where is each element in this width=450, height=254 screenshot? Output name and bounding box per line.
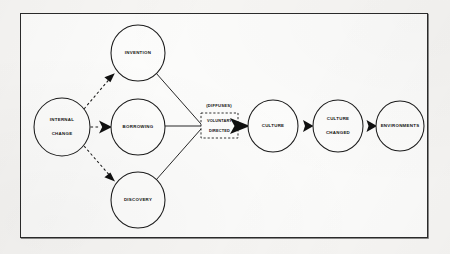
node-shape: [313, 100, 363, 152]
edge-culture-to-culture-changed: [303, 120, 314, 132]
node-shape: [34, 98, 90, 156]
node-label-line1: INVENTION: [125, 50, 151, 55]
node-culture[interactable]: CULTURE: [248, 100, 298, 152]
arrow-head-icon: [367, 120, 378, 132]
dashed-line: [84, 76, 112, 109]
node-label-line1: ENVIRONMENTS: [381, 123, 420, 128]
edge-internal-to-discovery: [84, 146, 115, 181]
node-discovery[interactable]: DISCOVERY: [111, 172, 165, 228]
diffuses-caption: (DIFFUSES): [206, 103, 232, 108]
node-label-line2: CHANGE: [52, 131, 73, 136]
diagram-page: VOLUNTARY DIRECTED (DIFFUSES) INTERNAL C…: [0, 0, 450, 254]
dashed-line: [84, 146, 112, 178]
node-label-line1: CULTURE: [262, 123, 285, 128]
node-internal-change[interactable]: INTERNAL CHANGE: [34, 98, 90, 156]
voluntary-directed-label-line1: VOLUNTARY: [207, 118, 232, 123]
voluntary-directed-label-line2: DIRECTED: [209, 128, 230, 133]
node-borrowing[interactable]: BORROWING: [111, 99, 165, 155]
node-label-line1: INTERNAL: [50, 117, 74, 122]
arrow-head-icon: [99, 121, 112, 134]
arrow-head-icon: [104, 172, 115, 181]
node-label-line1: BORROWING: [123, 124, 154, 129]
arrow-head-icon: [303, 120, 314, 132]
node-label-line1: CULTURE: [327, 116, 350, 121]
node-invention[interactable]: INVENTION: [111, 25, 165, 81]
edge-internal-to-invention: [84, 73, 115, 109]
node-label-line2: CHANGED: [326, 130, 350, 135]
edge-internal-to-borrowing: [91, 121, 113, 134]
arrow-head-icon: [104, 73, 114, 82]
flow-diagram: VOLUNTARY DIRECTED (DIFFUSES) INTERNAL C…: [0, 0, 450, 254]
node-culture-changed[interactable]: CULTURE CHANGED: [313, 100, 363, 152]
edge-culture-changed-to-environments: [367, 120, 378, 132]
node-environments[interactable]: ENVIRONMENTS: [376, 101, 424, 151]
node-label-line1: DISCOVERY: [124, 197, 152, 202]
